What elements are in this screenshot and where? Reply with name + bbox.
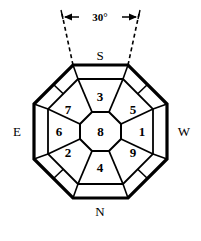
sector-label-bottom: 4 (97, 160, 104, 175)
guide-tick-left (61, 10, 63, 19)
angle-label: 30° (92, 11, 107, 23)
guide-line-left (62, 14, 73, 65)
sector-label-top: 3 (97, 89, 104, 104)
figure-canvas: 30° (0, 0, 201, 241)
sector-label-bottom-right: 9 (130, 145, 137, 160)
sector-label-top-right: 5 (130, 102, 137, 117)
arrowhead-right (129, 14, 137, 21)
arrowhead-left (64, 14, 72, 21)
sector-label-right: 1 (139, 124, 146, 139)
sector-label-top-left: 7 (65, 102, 72, 117)
compass-label-east: E (13, 124, 21, 139)
sector-label-bottom-left: 2 (65, 145, 72, 160)
compass-label-north: N (95, 204, 105, 219)
compass-label-south: S (96, 48, 103, 63)
sector-label-left: 6 (56, 124, 63, 139)
compass-label-west: W (178, 124, 191, 139)
octagon-compass-svg: 30° (0, 0, 201, 241)
center-label: 8 (97, 124, 104, 139)
guide-tick-right (138, 10, 140, 19)
guide-line-right (128, 14, 139, 65)
